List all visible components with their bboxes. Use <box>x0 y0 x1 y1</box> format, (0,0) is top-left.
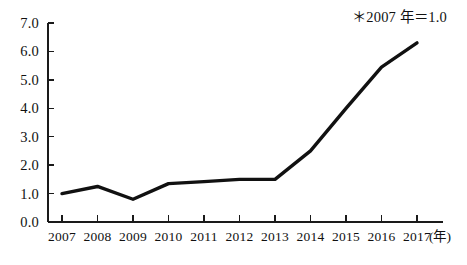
data-series <box>62 43 417 199</box>
y-axis-tick-label: 4.0 <box>20 100 39 116</box>
y-axis-tick-label: 5.0 <box>20 72 39 88</box>
x-axis-tick-label: 2017 <box>403 229 431 244</box>
y-axis-tick-label: 3.0 <box>20 129 39 145</box>
x-axis-tick-label: 2009 <box>119 229 147 244</box>
y-axis-tick-label: 2.0 <box>20 157 39 173</box>
x-axis-tick-label: 2010 <box>155 229 183 244</box>
y-axis-tick-label: 7.0 <box>20 15 39 31</box>
x-axis-tick-label: 2016 <box>368 229 396 244</box>
x-axis-tick-label: 2015 <box>332 229 360 244</box>
y-axis-tick-label: 1.0 <box>20 186 39 202</box>
y-axis-tick-label: 0.0 <box>20 214 39 230</box>
x-axis-tick-label: 2011 <box>190 229 217 244</box>
x-axis-tick-label: 2012 <box>226 229 254 244</box>
y-axis: 0.01.02.03.04.05.06.07.0 <box>20 15 54 230</box>
x-axis-tick-label: 2008 <box>84 229 112 244</box>
line-chart: 0.01.02.03.04.05.06.07.0 200720082009201… <box>0 0 467 265</box>
x-axis-tick-label: 2014 <box>297 229 325 244</box>
x-axis-unit-label: (年) <box>429 229 451 244</box>
x-axis: 2007200820092010201120122013201420152016… <box>48 215 443 244</box>
data-line-series <box>62 43 417 199</box>
chart-container: 0.01.02.03.04.05.06.07.0 200720082009201… <box>0 0 467 265</box>
x-axis-tick-label: 2013 <box>261 229 289 244</box>
chart-labels: (年)＊2007 年＝1.0 <box>352 9 451 244</box>
chart-annotation: ＊2007 年＝1.0 <box>352 9 447 25</box>
y-axis-tick-label: 6.0 <box>20 43 39 59</box>
x-axis-tick-label: 2007 <box>48 229 76 244</box>
